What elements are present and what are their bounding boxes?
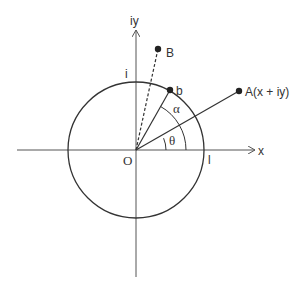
x-axis-label: x [258,144,264,158]
ray-OB-dashed [136,49,158,150]
ray-OA [136,91,239,150]
theta-label: θ [169,133,175,148]
point-b-label: b [176,84,183,98]
point-B-label: B [166,46,174,60]
circle-right-label: l [208,153,211,167]
point-A [236,88,242,94]
theta-arc [164,138,166,150]
point-b [167,87,173,93]
alpha-label: α [173,101,180,116]
y-axis-label: iy [130,14,139,28]
origin-label: O [123,153,132,168]
circle-top-label: i [125,67,128,81]
point-B [155,46,161,52]
argand-diagram: iy x O i l B b A(x + iy) θ α [0,0,296,291]
point-A-label: A(x + iy) [245,85,289,99]
